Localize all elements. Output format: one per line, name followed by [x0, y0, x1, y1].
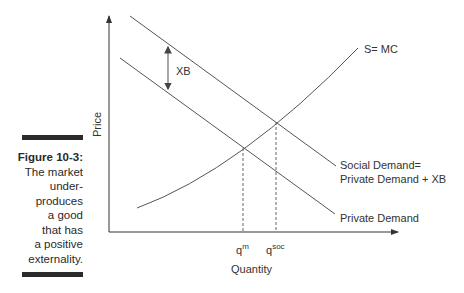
social-demand-label-2: Private Demand + XB: [340, 173, 446, 185]
x-axis-label: Quantity: [231, 263, 272, 275]
economics-diagram: XB qm qsoc Quantity Price S= MC Social D…: [0, 0, 464, 293]
supply-label: S= MC: [364, 43, 398, 55]
private-demand-curve: [120, 58, 335, 214]
xb-label: XB: [176, 65, 191, 77]
q-market-label: qm: [236, 242, 249, 256]
social-demand-label-1: Social Demand=: [340, 159, 421, 171]
supply-curve: [137, 48, 358, 208]
y-axis-label: Price: [91, 112, 103, 137]
q-social-label: qsoc: [266, 242, 285, 256]
private-demand-label: Private Demand: [340, 212, 419, 224]
social-demand-curve: [130, 16, 336, 166]
